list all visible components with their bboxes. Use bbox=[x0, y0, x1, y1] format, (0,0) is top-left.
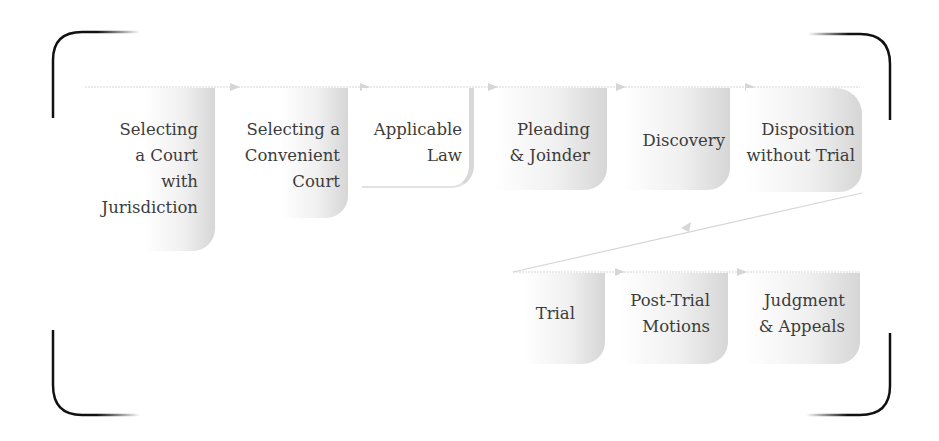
bracket-corner-top-left-icon bbox=[53, 32, 140, 118]
step-label: Applicable Law bbox=[360, 117, 462, 169]
step-label: Post-Trial Motions bbox=[600, 288, 710, 340]
return-connector bbox=[513, 193, 862, 272]
step-label: Trial bbox=[515, 301, 575, 327]
step-label: Selecting a Convenient Court bbox=[230, 117, 340, 195]
step-label: Judgment & Appeals bbox=[735, 288, 845, 340]
litigation-flow-diagram: Selecting a Court with Jurisdiction Sele… bbox=[0, 0, 939, 441]
step-label: Pleading & Joinder bbox=[480, 117, 590, 169]
step-label: Discovery bbox=[615, 128, 725, 154]
bracket-corner-bottom-left-icon bbox=[53, 330, 140, 415]
step-label: Disposition without Trial bbox=[725, 117, 855, 169]
step-label: Selecting a Court with Jurisdiction bbox=[95, 117, 198, 221]
